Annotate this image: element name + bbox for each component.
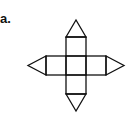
- right-rectangle: [86, 56, 106, 75]
- net-diagram: [0, 0, 129, 118]
- bottom-rectangle: [66, 75, 86, 94]
- bottom-triangle: [66, 94, 86, 111]
- top-rectangle: [66, 37, 86, 56]
- top-triangle: [66, 20, 86, 37]
- right-triangle: [106, 56, 124, 75]
- center-square: [66, 56, 86, 75]
- left-triangle: [28, 56, 46, 75]
- left-rectangle: [46, 56, 66, 75]
